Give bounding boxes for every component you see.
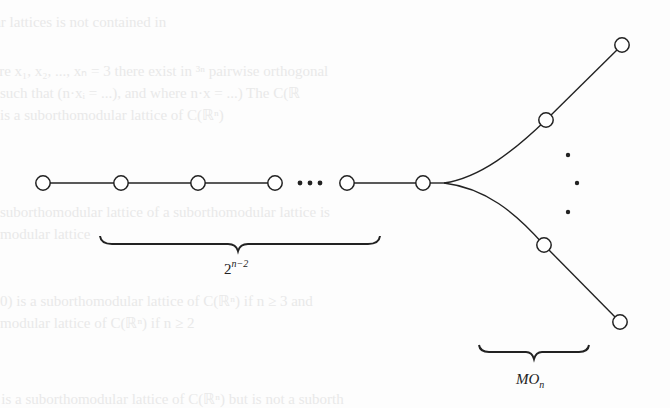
chain-ellipsis xyxy=(298,181,323,186)
ellipsis-dot xyxy=(566,153,570,157)
chain-node xyxy=(36,176,50,190)
chain-brace xyxy=(100,236,380,251)
fork-vertical-ellipsis xyxy=(566,153,579,214)
top-node xyxy=(615,38,629,52)
ellipsis-dot xyxy=(308,181,313,186)
upper-atom-node xyxy=(539,113,553,127)
chain-node xyxy=(191,176,205,190)
chain-length-base: 2 xyxy=(224,261,232,277)
ellipsis-dot xyxy=(298,181,303,186)
fork-root-node xyxy=(416,176,430,190)
mon-label: MOn xyxy=(516,372,544,390)
nodes xyxy=(36,38,629,329)
chain-length-label: 2n−2 xyxy=(224,260,248,277)
edges xyxy=(43,45,622,322)
bottom-node xyxy=(613,315,627,329)
upper-fork-curve xyxy=(444,120,546,183)
chain-length-exponent: n−2 xyxy=(232,258,249,269)
mon-label-subscript: n xyxy=(539,379,544,390)
chain-node xyxy=(268,176,282,190)
ellipsis-dot xyxy=(318,181,323,186)
mon-brace xyxy=(479,345,589,359)
chain-node xyxy=(114,176,128,190)
ellipsis-dot xyxy=(566,210,570,214)
upper-fork-edge xyxy=(546,45,622,120)
ellipsis-dot xyxy=(575,181,579,185)
lower-fork-edge xyxy=(544,245,620,322)
chain-node xyxy=(340,176,354,190)
lower-fork-curve xyxy=(444,183,544,245)
lower-atom-node xyxy=(537,238,551,252)
mon-label-base: MO xyxy=(516,371,539,387)
